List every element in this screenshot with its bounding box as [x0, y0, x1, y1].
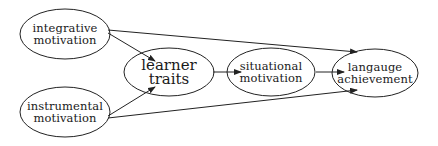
node-label-instrumental-motivation: instrumental motivation: [27, 101, 103, 124]
node-label-line: motivation: [33, 34, 98, 46]
node-label-integrative-motivation: integrative motivation: [33, 23, 98, 46]
node-label-line: traits: [141, 72, 197, 86]
node-label-learner-traits: learner traits: [141, 58, 197, 87]
arrow-integrative-to-achievement: [108, 30, 357, 52]
node-label-line: motivation: [239, 72, 302, 84]
node-label-line: motivation: [27, 112, 103, 124]
motivation-path-diagram: integrative motivation instrumental moti…: [0, 0, 438, 146]
node-label-line: achievement: [337, 73, 412, 85]
node-label-language-achievement: langauge achievement: [337, 62, 412, 85]
arrow-instrumental-to-learner: [108, 87, 155, 116]
arrow-instrumental-to-achievement: [108, 90, 357, 118]
node-label-situational-motivation: situational motivation: [239, 61, 302, 84]
